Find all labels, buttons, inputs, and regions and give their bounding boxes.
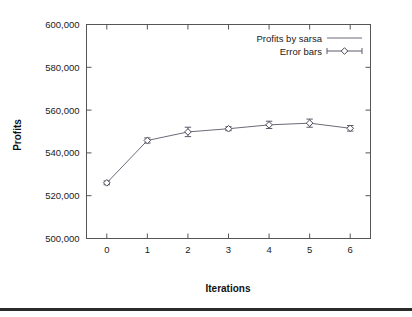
y-axis-title: Profits bbox=[12, 119, 23, 151]
x-tick-label: 2 bbox=[185, 244, 190, 255]
y-tick-label: 560,000 bbox=[45, 105, 79, 116]
x-tick-label: 1 bbox=[145, 244, 150, 255]
y-tick-label: 520,000 bbox=[45, 190, 79, 201]
x-tick-label: 3 bbox=[226, 244, 231, 255]
y-tick-label: 500,000 bbox=[45, 233, 79, 244]
error-bar-point bbox=[103, 180, 110, 187]
error-bar-point bbox=[225, 125, 232, 132]
error-bar-point bbox=[144, 137, 151, 144]
y-tick-label: 540,000 bbox=[45, 147, 79, 158]
bottom-divider-rule bbox=[0, 308, 412, 311]
x-axis-title: Iterations bbox=[205, 283, 250, 294]
profits-line-chart: Profits Iterations 500,000520,000540,000… bbox=[0, 0, 412, 317]
x-tick-label: 0 bbox=[104, 244, 109, 255]
legend-label: Error bars bbox=[280, 46, 322, 57]
x-tick-label: 5 bbox=[307, 244, 312, 255]
x-tick-label: 6 bbox=[348, 244, 353, 255]
chart-background bbox=[0, 0, 412, 317]
y-tick-label: 580,000 bbox=[45, 62, 79, 73]
error-bar-point bbox=[347, 125, 354, 132]
y-tick-label: 600,000 bbox=[45, 19, 79, 30]
chart-figure: Profits Iterations 500,000520,000540,000… bbox=[0, 0, 412, 317]
legend-label: Profits by sarsa bbox=[257, 33, 323, 44]
x-tick-label: 4 bbox=[266, 244, 271, 255]
